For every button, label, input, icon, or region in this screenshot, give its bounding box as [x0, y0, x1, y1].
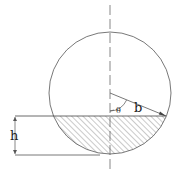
height-label: h: [10, 128, 19, 143]
angle-label: θ: [116, 106, 121, 115]
radius-label: b: [134, 100, 142, 115]
circular-segment-diagram: h b θ: [0, 0, 178, 174]
radius-arrowhead: [159, 112, 166, 117]
